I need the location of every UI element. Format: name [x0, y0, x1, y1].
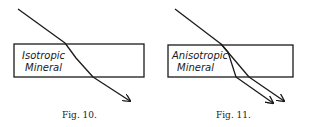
refraction-diagrams: Isotropic Mineral Fig. 10. Anisotropic M… [0, 0, 309, 127]
caption-fig-10: Fig. 10. [62, 110, 97, 120]
isotropic-label-line2: Mineral [25, 62, 62, 73]
isotropic-label-line1: Isotropic [22, 50, 66, 61]
figure-11: Anisotropic Mineral Fig. 11. [168, 9, 293, 120]
emergent-ray-arrow [93, 77, 130, 101]
anisotropic-label-line1: Anisotropic [171, 50, 229, 61]
figure-10: Isotropic Mineral Fig. 10. [14, 9, 144, 120]
refracted-ray [65, 43, 93, 77]
incident-ray [175, 9, 221, 44]
caption-fig-11: Fig. 11. [216, 110, 251, 120]
anisotropic-label-line2: Mineral [177, 62, 214, 73]
extraordinary-emergent-arrow [249, 77, 284, 101]
incident-ray [18, 9, 65, 43]
